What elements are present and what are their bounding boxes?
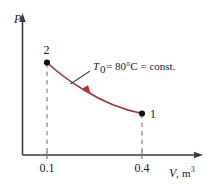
state-point-2-label: 2 — [44, 43, 50, 57]
x-axis-unit-exponent: 3 — [191, 165, 195, 174]
isotherm-symbol: T — [93, 60, 100, 72]
state-point-2 — [44, 59, 50, 65]
pv-diagram-figure: P V , m 3 0.1 0.4 2 1 — [0, 0, 210, 184]
isotherm-text: = 80°C = const. — [106, 60, 176, 72]
state-point-1 — [139, 110, 145, 116]
x-axis-unit-comma: , — [176, 167, 179, 179]
x-tick-label-0: 0.1 — [40, 161, 55, 175]
chart-background — [0, 0, 210, 184]
x-axis-unit: m — [182, 167, 191, 179]
y-axis-label: P — [13, 12, 22, 26]
state-point-1-label: 1 — [150, 107, 156, 121]
x-tick-label-1: 0.4 — [135, 161, 150, 175]
